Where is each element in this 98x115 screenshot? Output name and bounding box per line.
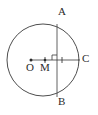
label-point-m: M <box>40 62 50 73</box>
label-point-b: B <box>58 96 65 107</box>
label-point-c: C <box>82 53 89 64</box>
label-point-o: O <box>26 62 34 73</box>
label-point-a: A <box>58 6 66 17</box>
right-angle-icon <box>52 55 57 60</box>
geometry-figure: O M A B C <box>0 0 98 115</box>
